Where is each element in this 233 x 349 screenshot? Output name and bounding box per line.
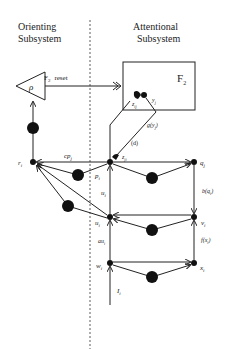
x-i-label: xi xyxy=(199,264,205,273)
reset-label: F2reset xyxy=(44,74,68,83)
gain-node-p xyxy=(72,169,84,181)
gain-node-q xyxy=(146,172,158,184)
au-i-label: aui xyxy=(98,238,105,246)
q-j-node xyxy=(191,159,197,165)
y-j-node xyxy=(141,92,147,98)
cp-j-label: cpj xyxy=(64,152,73,161)
art-diagram: Orienting Subsystem Attentional Subsyste… xyxy=(0,0,233,349)
rho-label: ρ xyxy=(28,82,34,92)
p-i-node xyxy=(107,159,113,165)
x-i-node xyxy=(191,260,197,266)
w-i-node xyxy=(107,260,113,266)
v-i-label: vi xyxy=(201,219,206,228)
gain-node-r xyxy=(27,122,39,134)
orienting-header-line1: Orienting xyxy=(18,21,56,32)
r-i-label: ri xyxy=(18,159,23,168)
z-ji-label: zji xyxy=(121,154,127,162)
u-i-label: ui xyxy=(95,219,101,228)
q-j-label: qj xyxy=(200,159,206,168)
d-label: (d) xyxy=(131,140,138,147)
r-i-node xyxy=(30,159,36,165)
gain-node-v xyxy=(146,224,158,236)
u-i-node xyxy=(107,214,113,220)
gain-node-u xyxy=(62,200,74,212)
z-ji-synapse xyxy=(112,154,119,160)
attentional-header-line1: Attentional xyxy=(133,21,178,32)
attentional-header-line2: Subsystem xyxy=(137,33,181,44)
I-i-label: Ii xyxy=(116,287,121,296)
f-x-label: f(xi) xyxy=(201,237,210,245)
gain-node-w xyxy=(146,271,158,283)
v-i-node xyxy=(191,214,197,220)
b-q-label: b(qi) xyxy=(202,188,213,196)
orienting-header-line2: Subsystem xyxy=(18,33,62,44)
u-i-up-label: ui xyxy=(101,189,107,198)
g-yj-label: g(yj) xyxy=(147,122,158,130)
w-i-label: wi xyxy=(96,262,103,271)
p-i-label: pi xyxy=(94,172,101,181)
